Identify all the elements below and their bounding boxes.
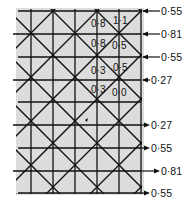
- right-label: 0·55: [161, 51, 182, 63]
- arrow-head-icon: [154, 169, 160, 174]
- right-label: 0·81: [161, 28, 182, 40]
- cell-label: 0·3: [91, 84, 106, 95]
- right-label: 0·55: [151, 187, 172, 199]
- arrow-head-icon: [144, 123, 150, 128]
- arrow-head-icon: [144, 191, 150, 196]
- arrow-head-icon: [144, 146, 150, 151]
- cell-label: 0·8: [91, 38, 106, 49]
- cell-label: 1·1: [113, 15, 128, 26]
- cell-label: 0·5: [113, 62, 128, 73]
- right-label: 0·27: [151, 74, 172, 86]
- right-label: 0·55: [161, 5, 182, 17]
- right-label: 0·55: [151, 142, 172, 154]
- cell-label: 0·3: [91, 65, 106, 76]
- right-label: 0·81: [161, 165, 182, 177]
- stress-grid-diagram: 0·81·10·80·50·50·30·30·0 0·550·810·550·2…: [0, 0, 190, 205]
- cell-label: 0·0: [112, 87, 127, 98]
- cell-label: 0·5: [112, 40, 127, 51]
- cell-label: 0·8: [91, 18, 106, 29]
- right-label: 0·27: [151, 119, 172, 131]
